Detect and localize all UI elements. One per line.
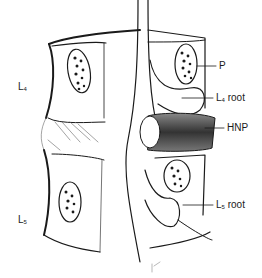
label-l4-root: L4 root [216, 93, 245, 103]
label-pedicle: P [219, 61, 226, 71]
label-hnp: HNP [227, 123, 248, 133]
label-l5-root: L5 root [216, 200, 245, 210]
l4-vertebral-body [46, 30, 140, 123]
l5-vertebral-body [44, 150, 104, 252]
herniated-disc [140, 113, 224, 151]
spine-drawing [0, 0, 262, 278]
l5-root [145, 170, 213, 240]
spine-illustration: L4 L5 P L4 root HNP L5 root [0, 0, 262, 278]
label-l4-vertebra: L4 [18, 82, 27, 92]
l4-root [150, 60, 213, 115]
l5-right-body [150, 155, 210, 248]
label-l5-vertebra: L5 [18, 215, 27, 225]
artist-signature [152, 262, 160, 272]
